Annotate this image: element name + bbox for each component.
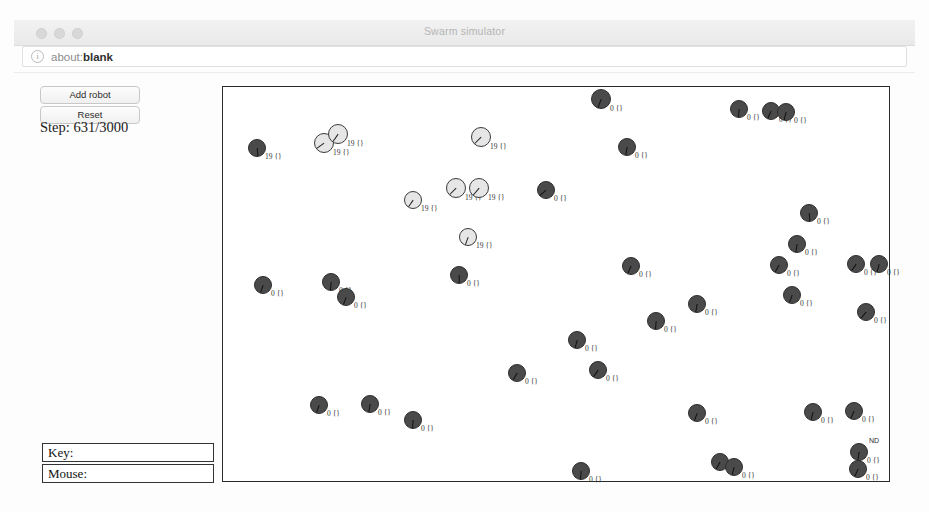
robot-label: 0 {} <box>606 374 619 383</box>
address-scheme: about: <box>51 51 83 63</box>
address-bar[interactable]: i about:blank <box>22 46 907 67</box>
robot-label: 19 {} <box>490 142 507 151</box>
simulation-canvas[interactable]: 19 {}19 {}19 {}19 {}0 {}0 {}0 {}0 {}0 {}… <box>222 86 890 482</box>
robot-label: 0 {} <box>354 301 367 310</box>
robot-label: 0 {} <box>664 325 677 334</box>
add-robot-button[interactable]: Add robot <box>40 86 140 104</box>
robot-label: 0 {} <box>747 113 760 122</box>
robot-label: 19 {} <box>476 241 493 250</box>
info-icon[interactable]: i <box>31 50 44 63</box>
robot-label: 0 {} <box>378 408 391 417</box>
robot-label: 0 {} <box>589 475 602 484</box>
robot-label: 0 {} <box>887 268 900 277</box>
robot-label: 0 {} <box>421 424 434 433</box>
robot-label: 0 {} <box>271 289 284 298</box>
robot-label: 0 {} <box>866 473 879 482</box>
robot-label: 0 {} <box>327 409 340 418</box>
robot-label: 19 {} <box>421 204 438 213</box>
key-field-label: Key: <box>48 445 73 461</box>
robot-label: 0 {} <box>525 377 538 386</box>
address-value: blank <box>83 51 113 63</box>
canvas-annotation-nd: ND <box>869 437 879 444</box>
chrome-separator <box>14 72 915 73</box>
robot-label: 0 {} <box>742 471 755 480</box>
robot-label: 0 {} <box>787 269 800 278</box>
app-root: Swarm simulator i about:blank Add robot … <box>0 0 929 512</box>
robot-label: 0 {} <box>821 416 834 425</box>
robot-label: 0 {} <box>862 415 875 424</box>
robot-label: 19 {} <box>488 193 505 202</box>
robot-label: 0 {} <box>800 299 813 308</box>
robot-label: 0 {} <box>585 344 598 353</box>
robot-label: 0 {} <box>610 104 623 113</box>
window-title: Swarm simulator <box>14 25 915 37</box>
robot-label: 19 {} <box>265 152 282 161</box>
robot-label: 0 {} <box>817 217 830 226</box>
robot-label: 19 {} <box>333 148 350 157</box>
mouse-field-label: Mouse: <box>48 466 87 482</box>
window-titlebar: Swarm simulator <box>14 20 915 46</box>
robot-label: 0 {} <box>794 116 807 125</box>
robot-label: 0 {} <box>639 270 652 279</box>
robot-label: 0 {} <box>554 194 567 203</box>
robot-layer: 19 {}19 {}19 {}19 {}0 {}0 {}0 {}0 {}0 {}… <box>223 87 889 481</box>
robot-label: 0 {} <box>867 456 880 465</box>
robot-label: 0 {} <box>705 308 718 317</box>
robot-label: 0 {} <box>874 316 887 325</box>
robot-label: 0 {} <box>805 248 818 257</box>
robot-label: 19 {} <box>347 139 364 148</box>
robot-label: 0 {} <box>635 151 648 160</box>
address-bar-text: about:blank <box>51 51 113 63</box>
mouse-field[interactable]: Mouse: <box>42 464 214 483</box>
key-field[interactable]: Key: <box>42 443 214 462</box>
step-counter: Step: 631/3000 <box>40 119 128 136</box>
robot-label: 0 {} <box>705 417 718 426</box>
robot-heading-indicator <box>458 275 459 283</box>
robot-label: 0 {} <box>467 279 480 288</box>
